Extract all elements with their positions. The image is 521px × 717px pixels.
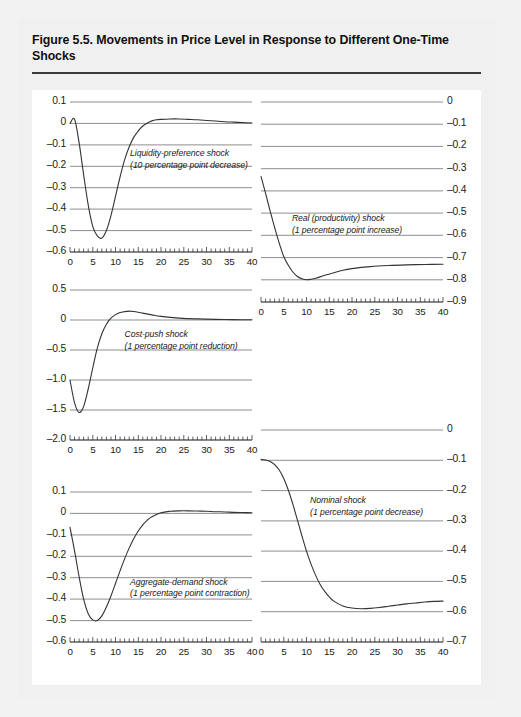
x-tick-label: 25 (179, 444, 190, 455)
y-tick-label: –0.5 (47, 343, 66, 354)
x-tick-label: 35 (415, 646, 426, 657)
figure-header: Figure 5.5. Movements in Price Level in … (32, 32, 481, 74)
data-line-liquidity-preference (70, 118, 252, 238)
x-tick-label: 35 (224, 646, 235, 657)
y-tick-label: –0.6 (447, 228, 466, 239)
x-tick-label: 35 (224, 256, 235, 267)
x-tick-label: 15 (324, 646, 335, 657)
x-tick-label: 5 (281, 306, 286, 317)
chart-real-productivity: 0–0.1–0.2–0.3–0.4–0.5–0.6–0.7–0.8–0.9051… (257, 96, 481, 324)
x-tick-label: 30 (201, 256, 212, 267)
annotation-line-1: Aggregate-demand shock (130, 577, 227, 587)
x-tick-label: 15 (133, 256, 144, 267)
chart-aggregate-demand: 0.10–0.1–0.2–0.3–0.4–0.5–0.6051015202530… (32, 486, 256, 664)
chart-annotation-real-productivity: Real (productivity) shock(1 percentage p… (292, 213, 402, 236)
x-tick-label: 0 (67, 646, 72, 657)
y-tick-label: –0.9 (447, 295, 466, 306)
data-line-cost-push (70, 311, 252, 412)
x-tick-label: 5 (90, 646, 95, 657)
x-tick-label: 20 (156, 444, 167, 455)
y-tick-label: 0 (447, 95, 453, 106)
annotation-line-2: (1 percentage point reduction) (125, 341, 238, 353)
chart-nominal: 0–0.1–0.2–0.3–0.4–0.5–0.6–0.705101520253… (257, 424, 481, 664)
y-tick-label: –0.1 (47, 138, 66, 149)
x-tick-label: 10 (301, 306, 312, 317)
x-tick-label: 40 (247, 444, 258, 455)
y-tick-label: –0.4 (447, 544, 466, 555)
y-tick-label: 0 (60, 313, 66, 324)
x-tick-label: 40 (438, 646, 449, 657)
x-tick-label: 10 (110, 256, 121, 267)
y-tick-label: –0.2 (47, 549, 66, 560)
y-tick-label: –0.2 (47, 159, 66, 170)
x-tick-label: 10 (301, 646, 312, 657)
x-tick-label: 40 (438, 306, 449, 317)
data-line-nominal (261, 459, 443, 608)
figure-page: Figure 5.5. Movements in Price Level in … (18, 18, 495, 699)
x-tick-label: 0 (67, 444, 72, 455)
x-tick-label: 40 (247, 256, 258, 267)
x-tick-label: 20 (156, 646, 167, 657)
x-tick-label: 30 (392, 646, 403, 657)
y-tick-label: –1.5 (47, 403, 66, 414)
chart-annotation-liquidity-preference: Liquidity-preference shock(10 percentage… (130, 148, 248, 171)
x-tick-label: 40 (247, 646, 258, 657)
y-axis-labels-real-productivity: 0–0.1–0.2–0.3–0.4–0.5–0.6–0.7–0.8–0.9 (443, 96, 481, 324)
x-tick-label: 0 (258, 306, 263, 317)
x-tick-label: 15 (133, 646, 144, 657)
data-line-aggregate-demand (70, 511, 252, 621)
y-tick-label: –0.3 (47, 571, 66, 582)
x-tick-label: 5 (90, 444, 95, 455)
annotation-line-2: (10 percentage point decrease) (130, 160, 248, 172)
y-tick-label: –0.4 (47, 202, 66, 213)
y-tick-label: 0 (60, 506, 66, 517)
y-tick-label: –0.7 (447, 251, 466, 262)
y-tick-label: –0.5 (447, 206, 466, 217)
chart-annotation-cost-push: Cost-push shock(1 percentage point reduc… (125, 329, 238, 352)
y-tick-label: –0.8 (447, 273, 466, 284)
y-axis-labels-aggregate-demand: 0.10–0.1–0.2–0.3–0.4–0.5–0.6 (32, 486, 70, 664)
y-tick-label: –2.0 (47, 433, 66, 444)
y-tick-label: –0.1 (47, 528, 66, 539)
x-tick-label: 20 (347, 646, 358, 657)
x-tick-label: 5 (90, 256, 95, 267)
chart-panel: 0.10–0.1–0.2–0.3–0.4–0.5–0.6051015202530… (32, 90, 481, 685)
x-tick-label: 0 (258, 646, 263, 657)
chart-cost-push: 0.50–0.5–1.0–1.5–2.00510152025303540Cost… (32, 284, 256, 462)
annotation-line-2: (1 percentage point increase) (292, 225, 402, 237)
page-title: Figure 5.5. Movements in Price Level in … (32, 32, 481, 65)
y-tick-label: –0.2 (447, 484, 466, 495)
annotation-line-2: (1 percentage point decrease) (310, 507, 423, 519)
x-tick-label: 15 (324, 306, 335, 317)
annotation-line-2: (1 percentage point contraction) (130, 588, 249, 600)
y-tick-label: –0.6 (47, 635, 66, 646)
x-tick-label: 10 (110, 646, 121, 657)
x-tick-label: 5 (281, 646, 286, 657)
x-tick-label: 20 (156, 256, 167, 267)
y-tick-label: –0.4 (447, 184, 466, 195)
x-tick-label: 25 (179, 646, 190, 657)
title-divider (32, 72, 481, 74)
annotation-line-1: Real (productivity) shock (292, 213, 385, 223)
y-tick-label: 0.5 (52, 283, 66, 294)
y-tick-label: –0.7 (447, 635, 466, 646)
x-tick-label: 30 (201, 444, 212, 455)
annotation-line-1: Liquidity-preference shock (130, 148, 229, 158)
y-axis-labels-liquidity-preference: 0.10–0.1–0.2–0.3–0.4–0.5–0.6 (32, 96, 70, 274)
annotation-line-1: Nominal shock (310, 495, 366, 505)
x-tick-label: 15 (133, 444, 144, 455)
x-tick-label: 30 (201, 646, 212, 657)
y-tick-label: –0.3 (447, 162, 466, 173)
chart-liquidity-preference: 0.10–0.1–0.2–0.3–0.4–0.5–0.6051015202530… (32, 96, 256, 274)
y-tick-label: 0.1 (52, 485, 66, 496)
x-tick-label: 35 (415, 306, 426, 317)
y-tick-label: –1.0 (47, 373, 66, 384)
x-tick-label: 20 (347, 306, 358, 317)
y-tick-label: –0.5 (47, 224, 66, 235)
y-tick-label: 0.1 (52, 95, 66, 106)
chart-annotation-aggregate-demand: Aggregate-demand shock(1 percentage poin… (130, 577, 249, 600)
y-tick-label: –0.6 (47, 245, 66, 256)
x-tick-label: 25 (179, 256, 190, 267)
y-tick-label: –0.5 (447, 574, 466, 585)
x-tick-label: 25 (370, 306, 381, 317)
